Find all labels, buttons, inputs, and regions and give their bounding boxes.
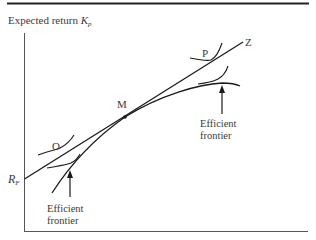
point-p-label: P xyxy=(202,47,208,59)
frontier-label-upper-line2: frontier xyxy=(200,130,237,142)
frontier-label-lower-line2: frontier xyxy=(47,215,84,227)
arrow-up-icon xyxy=(219,85,225,93)
indifference-curve-upper xyxy=(198,66,228,84)
efficient-frontier-label-lower: Efficient frontier xyxy=(47,203,84,227)
indifference-curve-lower xyxy=(47,154,80,168)
efficient-frontier-label-upper: Efficient frontier xyxy=(200,118,237,142)
risk-free-subscript: F xyxy=(15,179,19,187)
point-z-label: Z xyxy=(245,36,252,48)
frontier-label-upper-line1: Efficient xyxy=(200,118,237,130)
point-m-label: M xyxy=(117,98,127,110)
capital-market-line-diagram: Expected return Kp RF O M P Z Efficient … xyxy=(0,0,316,240)
y-axis-subscript: p xyxy=(88,20,92,28)
y-axis-symbol: K xyxy=(81,14,88,26)
risk-free-rate-label: RF xyxy=(8,173,20,189)
capital-market-line xyxy=(25,42,244,179)
point-m-marker xyxy=(123,115,127,119)
y-axis-label: Expected return Kp xyxy=(8,14,92,30)
point-o-label: O xyxy=(52,140,60,152)
y-axis-label-text: Expected return xyxy=(8,14,78,26)
frontier-label-lower-line1: Efficient xyxy=(47,203,84,215)
